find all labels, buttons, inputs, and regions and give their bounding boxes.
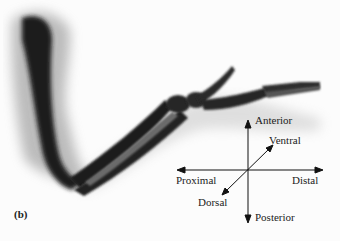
label-anterior: Anterior — [255, 114, 292, 126]
label-dorsal: Dorsal — [198, 196, 227, 208]
label-posterior: Posterior — [255, 211, 295, 223]
panel-label: (b) — [14, 208, 27, 220]
figure: Anterior Ventral Proximal Distal Dorsal … — [0, 0, 340, 241]
label-distal: Distal — [292, 174, 318, 186]
label-proximal: Proximal — [176, 174, 216, 186]
label-ventral: Ventral — [269, 134, 301, 146]
